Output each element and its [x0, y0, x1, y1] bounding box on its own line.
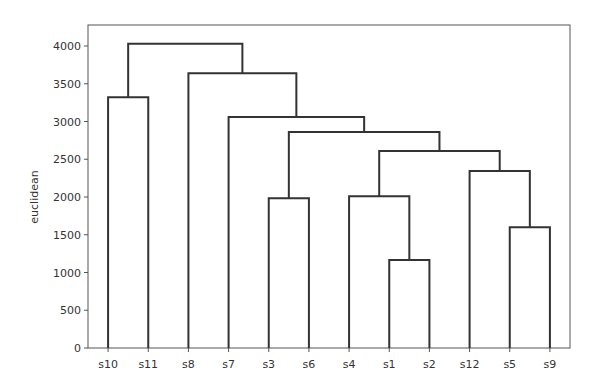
dendrogram-link	[470, 171, 530, 348]
y-tick-label: 1000	[53, 267, 81, 280]
leaf-label: s8	[182, 358, 195, 371]
dendrogram-link	[349, 196, 409, 348]
y-tick-label: 3000	[53, 116, 81, 129]
plot-area	[88, 25, 570, 348]
leaf-label: s12	[460, 358, 480, 371]
leaf-label: s2	[423, 358, 436, 371]
dendrogram-link	[389, 260, 429, 348]
y-tick-label: 0	[74, 342, 81, 355]
x-axis: s10s11s8s7s3s6s4s1s2s12s5s9	[98, 348, 556, 371]
leaf-label: s11	[138, 358, 158, 371]
y-tick-label: 2500	[53, 153, 81, 166]
plot-frame	[88, 25, 570, 348]
leaf-label: s5	[503, 358, 516, 371]
y-axis: 05001000150020002500300035004000	[53, 40, 88, 355]
y-tick-label: 1500	[53, 229, 81, 242]
dendrogram-link	[379, 151, 500, 196]
leaf-label: s6	[303, 358, 316, 371]
leaf-label: s10	[98, 358, 118, 371]
dendrogram-chart: 05001000150020002500300035004000 s10s11s…	[0, 0, 604, 392]
leaf-label: s4	[343, 358, 356, 371]
y-tick-label: 4000	[53, 40, 81, 53]
dendrogram-link	[229, 117, 365, 348]
leaf-label: s9	[544, 358, 557, 371]
dendrogram-link	[128, 44, 242, 98]
dendrogram-link	[108, 97, 148, 348]
y-tick-label: 500	[60, 304, 81, 317]
y-tick-label: 2000	[53, 191, 81, 204]
dendrogram-link	[510, 227, 550, 348]
dendrogram-link	[269, 198, 309, 348]
leaf-label: s3	[262, 358, 275, 371]
leaf-label: s7	[222, 358, 235, 371]
y-axis-label: euclidean	[28, 170, 41, 223]
dendrogram-link	[289, 132, 440, 198]
dendrogram-link	[188, 73, 296, 348]
y-tick-label: 3500	[53, 78, 81, 91]
leaf-label: s1	[383, 358, 396, 371]
